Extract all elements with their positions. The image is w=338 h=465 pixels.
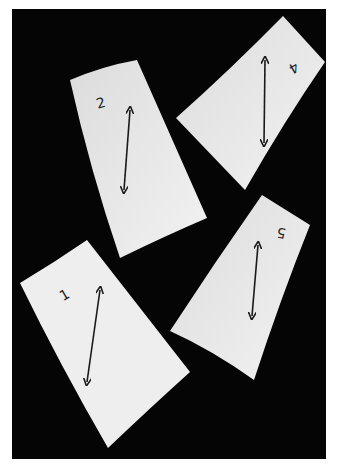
photo: 2 4 1 5 <box>0 0 338 465</box>
double-arrow-icon <box>264 60 265 143</box>
